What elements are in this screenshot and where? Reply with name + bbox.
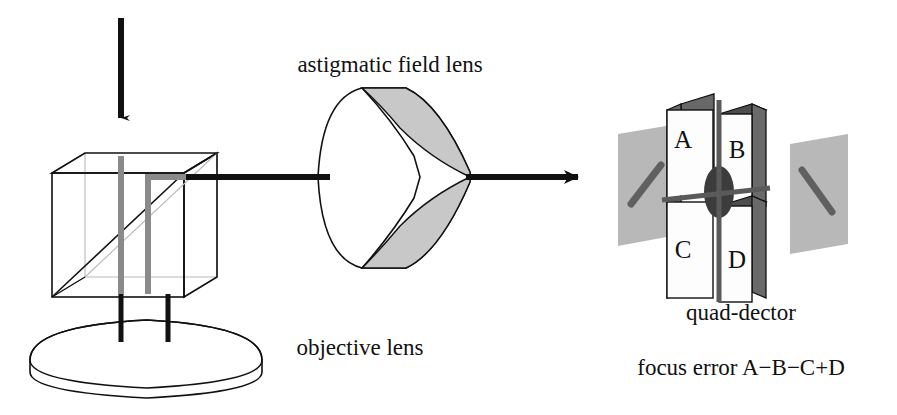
objective-lens-label: objective lens — [296, 335, 423, 360]
detector-quadrant-c[interactable]: C — [667, 196, 713, 298]
quadrant-c-label: C — [675, 236, 692, 263]
splitter-plane-edge-high — [184, 153, 217, 173]
quadrant-a-label: A — [674, 126, 692, 153]
quad-detector: A B C D — [662, 94, 770, 302]
beam-to-objective-group — [121, 294, 168, 342]
optical-diagram-svg: A B C D — [0, 0, 897, 415]
splitter-plane-edge-low — [52, 277, 85, 297]
diagram-canvas: A B C D — [0, 0, 897, 415]
focus-plane-left — [618, 125, 672, 246]
focus-plane-right — [790, 134, 848, 254]
focus-error-formula-label: focus error A−B−C+D — [637, 355, 845, 380]
quadrant-d-side-face — [752, 196, 766, 298]
astigmatic-field-lens — [318, 88, 470, 268]
objective-lens-top-surface — [30, 320, 262, 388]
quad-detector-label: quad-dector — [686, 300, 796, 325]
objective-lens — [30, 320, 262, 398]
astigmatic-field-lens-label: astigmatic field lens — [297, 52, 482, 77]
cube-top-face — [52, 153, 217, 173]
quadrant-b-label: B — [729, 136, 746, 163]
quadrant-d-label: D — [728, 246, 746, 273]
